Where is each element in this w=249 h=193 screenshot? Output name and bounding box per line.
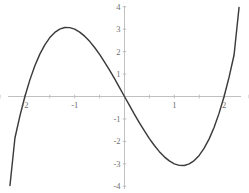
x-tick-label: 2 bbox=[222, 101, 226, 110]
y-tick-label: -4 bbox=[113, 182, 120, 191]
plot-canvas bbox=[0, 0, 249, 193]
y-tick-label: -3 bbox=[113, 160, 120, 169]
x-tick-label: 1 bbox=[172, 101, 176, 110]
y-tick-label: 2 bbox=[116, 47, 120, 56]
y-tick-label: 4 bbox=[116, 2, 120, 11]
x-tick-label: -1 bbox=[71, 101, 78, 110]
x-tick-label: -2 bbox=[21, 101, 28, 110]
cubic-function-plot: -2-1124321-1-2-3-4 bbox=[0, 0, 249, 193]
y-tick-label: -2 bbox=[113, 137, 120, 146]
y-tick-label: 1 bbox=[116, 70, 120, 79]
y-tick-label: -1 bbox=[113, 115, 120, 124]
y-tick-label: 3 bbox=[116, 25, 120, 34]
